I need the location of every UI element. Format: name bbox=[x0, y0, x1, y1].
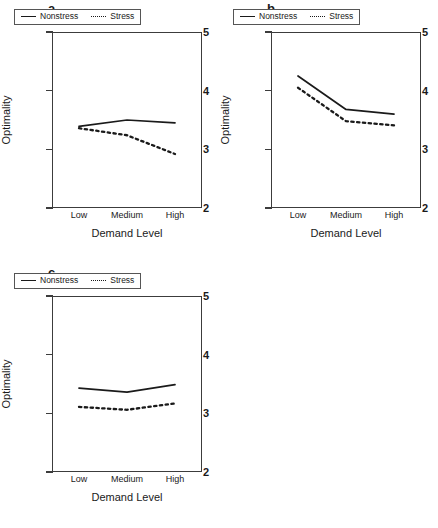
legend-entry-stress: Stress bbox=[91, 12, 134, 21]
y-tick-label-3: 3 bbox=[422, 144, 428, 155]
series-line-stress bbox=[298, 88, 394, 126]
legend-entry-stress: Stress bbox=[91, 276, 134, 285]
y-tick-label-4: 4 bbox=[422, 85, 428, 96]
y-tick-label-2: 2 bbox=[422, 203, 428, 214]
y-axis-title-c: Optimality bbox=[1, 360, 12, 409]
x-tick-label-high: High bbox=[166, 211, 185, 220]
dotted-line-icon bbox=[91, 280, 106, 281]
solid-line-icon bbox=[21, 16, 36, 17]
y-tick-label-5: 5 bbox=[203, 27, 209, 38]
figure-multi-panel-line-charts: a Nonstress Stress Demand Level Optimali… bbox=[0, 0, 438, 528]
x-tick-label-medium: Medium bbox=[330, 211, 362, 220]
x-tick-label-medium: Medium bbox=[111, 475, 143, 484]
x-tick-label-low: Low bbox=[71, 211, 88, 220]
series-layer-a bbox=[52, 32, 202, 208]
y-tick-label-2: 2 bbox=[203, 203, 209, 214]
panel-b: b Nonstress Stress Demand Level Optimali… bbox=[219, 0, 438, 264]
dotted-line-icon bbox=[310, 16, 325, 17]
series-line-stress bbox=[79, 403, 175, 409]
series-layer-c bbox=[52, 296, 202, 472]
y-tick-label-3: 3 bbox=[203, 408, 209, 419]
dotted-line-icon bbox=[91, 16, 106, 17]
solid-line-icon bbox=[21, 280, 36, 281]
x-tick-label-low: Low bbox=[71, 475, 88, 484]
x-tick-label-low: Low bbox=[290, 211, 307, 220]
y-axis-title-a: Optimality bbox=[1, 96, 12, 145]
y-axis-title-b: Optimality bbox=[220, 96, 231, 145]
legend-c: Nonstress Stress bbox=[14, 273, 141, 289]
x-axis-title-b: Demand Level bbox=[311, 228, 382, 239]
legend-label-stress: Stress bbox=[329, 12, 353, 21]
legend-label-nonstress: Nonstress bbox=[40, 276, 78, 285]
legend-label-stress: Stress bbox=[110, 12, 134, 21]
legend-entry-nonstress: Nonstress bbox=[240, 12, 297, 21]
legend-entry-nonstress: Nonstress bbox=[21, 276, 78, 285]
solid-line-icon bbox=[240, 16, 255, 17]
series-line-nonstress bbox=[79, 385, 175, 393]
y-tick-label-4: 4 bbox=[203, 349, 209, 360]
y-tick-label-2: 2 bbox=[203, 467, 209, 478]
series-line-stress bbox=[79, 128, 175, 154]
y-tick-label-3: 3 bbox=[203, 144, 209, 155]
x-tick-label-medium: Medium bbox=[111, 211, 143, 220]
x-tick-label-high: High bbox=[166, 475, 185, 484]
panel-c: c Nonstress Stress Demand Level Optimali… bbox=[0, 264, 219, 528]
legend-label-stress: Stress bbox=[110, 276, 134, 285]
x-tick-label-high: High bbox=[385, 211, 404, 220]
legend-entry-stress: Stress bbox=[310, 12, 353, 21]
series-line-nonstress bbox=[79, 120, 175, 126]
y-tick-label-4: 4 bbox=[203, 85, 209, 96]
legend-b: Nonstress Stress bbox=[233, 9, 360, 25]
x-axis-title-a: Demand Level bbox=[92, 228, 163, 239]
x-axis-title-c: Demand Level bbox=[92, 492, 163, 503]
panel-a: a Nonstress Stress Demand Level Optimali… bbox=[0, 0, 219, 264]
y-tick-label-5: 5 bbox=[203, 291, 209, 302]
legend-label-nonstress: Nonstress bbox=[259, 12, 297, 21]
series-line-nonstress bbox=[298, 76, 394, 114]
legend-entry-nonstress: Nonstress bbox=[21, 12, 78, 21]
series-layer-b bbox=[271, 32, 421, 208]
y-tick-label-5: 5 bbox=[422, 27, 428, 38]
legend-a: Nonstress Stress bbox=[14, 9, 141, 25]
legend-label-nonstress: Nonstress bbox=[40, 12, 78, 21]
